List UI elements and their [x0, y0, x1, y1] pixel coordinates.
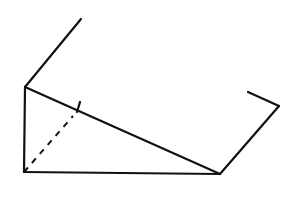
base-line	[24, 172, 220, 174]
upper-extension-line	[25, 19, 81, 87]
left-vertical-line	[24, 87, 25, 172]
geometry-diagram	[0, 0, 295, 214]
altitude-line	[24, 116, 73, 172]
hypotenuse-line	[25, 87, 220, 174]
right-rising-line	[220, 106, 279, 174]
right-hook-line	[248, 92, 279, 106]
